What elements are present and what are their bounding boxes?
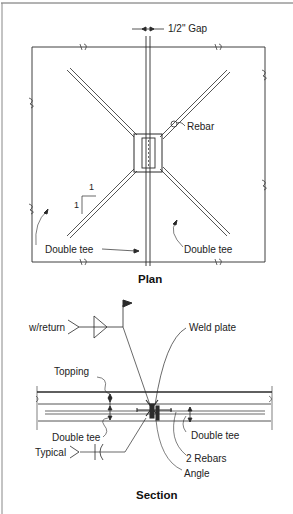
double-tee-right-label: Double tee [184, 244, 232, 255]
double-tee-left-label: Double tee [45, 244, 93, 255]
topping-label: Topping [54, 366, 89, 377]
plan-view [29, 27, 266, 266]
slope-run-label: 1 [89, 182, 94, 193]
drawing-frame: 1/2" Gap Rebar 1 1 Double tee Double tee… [0, 0, 293, 514]
slope-rise-label: 1 [74, 200, 79, 211]
section-double-tee-left-label: Double tee [52, 432, 100, 443]
angle-label: Angle [184, 468, 210, 479]
plan-title: Plan [138, 273, 162, 285]
rebars-label: 2 Rebars [186, 453, 227, 464]
rebar-label: Rebar [187, 121, 214, 132]
section-double-tee-right-label: Double tee [191, 430, 239, 441]
typical-label: Typical [35, 447, 66, 458]
gap-label: 1/2" Gap [168, 23, 207, 34]
section-view [36, 300, 272, 470]
w-return-label: w/return [29, 322, 65, 333]
section-title: Section [136, 489, 178, 501]
connection-detail-drawing [0, 0, 293, 514]
weld-plate-label: Weld plate [189, 322, 236, 333]
